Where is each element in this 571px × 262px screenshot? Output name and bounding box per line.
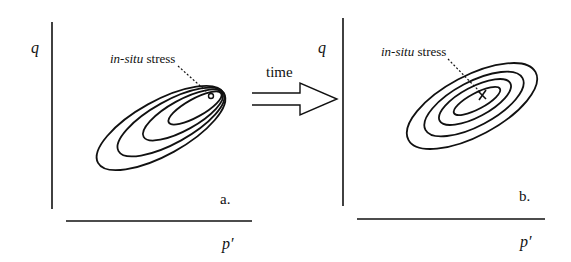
panel-a-annotation-italic: in-situ [110,51,143,66]
panel-a-annotation-rest: stress [143,51,175,66]
panel-a-annotation: in-situ stress [110,52,175,65]
panel-b-x-axis-label: p′ [520,234,532,250]
time-arrow-label: time [266,65,293,80]
panel-b-y-axis-label: q [318,40,326,56]
panel-a-y-axis-label: q [31,40,39,56]
panel-a-in-situ-point [209,94,214,99]
panel-b-annotation-italic: in-situ [381,44,414,59]
panel-b-annotation-rest: stress [414,44,446,59]
panel-a-yield-contours [85,69,237,186]
panel-b-yield-contours [394,46,549,167]
panel-b-annotation: in-situ stress [381,45,446,58]
panel-b-label: b. [519,189,530,204]
time-arrow-icon [252,83,337,115]
panel-a-label: a. [220,192,230,207]
diagram-canvas [0,0,571,262]
panel-a-x-axis-label: p′ [222,236,234,252]
